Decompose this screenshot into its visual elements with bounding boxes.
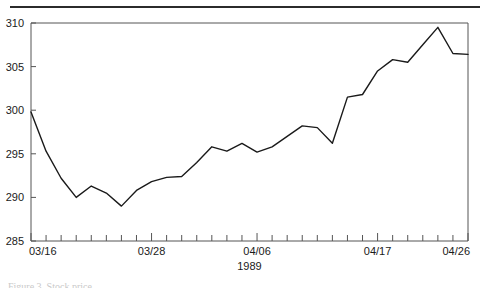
x-axis: 03/1603/2804/0604/1704/26 xyxy=(29,233,470,257)
y-tick-label: 285 xyxy=(6,235,24,247)
y-tick-label: 295 xyxy=(6,148,24,160)
figure-caption-partial: Figure 3. Stock price xyxy=(8,281,228,288)
line-chart: 285290295300305310 03/1603/2804/0604/170… xyxy=(0,0,490,288)
y-tick-label: 300 xyxy=(6,104,24,116)
y-tick-label: 290 xyxy=(6,191,24,203)
y-tick-label: 305 xyxy=(6,61,24,73)
data-series-line xyxy=(31,27,468,206)
x-axis-title: 1989 xyxy=(237,260,261,272)
x-tick-label: 04/06 xyxy=(243,245,271,257)
x-tick-label: 03/28 xyxy=(138,245,166,257)
x-axis-title-text: 1989 xyxy=(237,260,261,272)
x-tick-label: 03/16 xyxy=(29,245,57,257)
x-tick-label: 04/26 xyxy=(442,245,470,257)
plot-frame xyxy=(31,23,468,241)
x-tick-label: 04/17 xyxy=(364,245,392,257)
series-path xyxy=(31,27,468,206)
y-tick-label: 310 xyxy=(6,17,24,29)
plot-border xyxy=(31,23,468,241)
figure-container: 285290295300305310 03/1603/2804/0604/170… xyxy=(0,0,490,288)
